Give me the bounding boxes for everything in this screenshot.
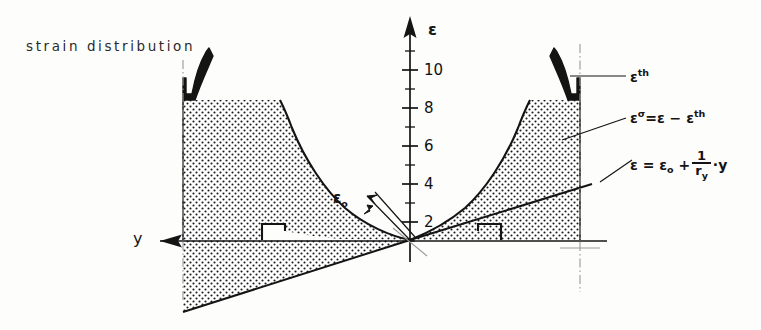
- linear-eps0-base: ε: [659, 157, 667, 173]
- thermal-base: ε: [630, 69, 638, 85]
- tick-label-6: 6: [424, 137, 434, 155]
- linear-plus: +: [678, 157, 690, 173]
- fraction-numerator: 1: [692, 149, 711, 162]
- tick-label-8: 8: [424, 99, 434, 117]
- radius-subscript: y: [702, 169, 708, 180]
- curvature-fraction: 1ry: [692, 149, 711, 180]
- stress-equals: =: [645, 110, 657, 126]
- linear-eps0-subscript: o: [667, 164, 674, 175]
- stress-rhs-thermal-superscript: th: [694, 108, 705, 119]
- left-thermal-spike: [183, 48, 213, 100]
- strain-axis-symbol: ε: [428, 20, 437, 39]
- left-lobe-stipple: [183, 100, 410, 240]
- stress-lhs-base: ε: [630, 110, 638, 126]
- stress-strain-equation: εσ=ε − εth: [630, 108, 705, 126]
- tick-label-2: 2: [424, 213, 434, 231]
- stress-rhs-total: ε: [657, 110, 665, 126]
- epsilon-zero-subscript: o: [341, 198, 348, 209]
- right-thermal-spike: [550, 48, 580, 100]
- stress-rhs-thermal-base: ε: [686, 110, 694, 126]
- left-lobe-step: [262, 224, 285, 240]
- strain-distribution-figure: strain distribution: [0, 0, 761, 330]
- thermal-superscript: th: [638, 67, 649, 78]
- linear-lhs: ε: [630, 157, 638, 173]
- leader-line-linear: [600, 160, 632, 182]
- tick-label-10: 10: [424, 61, 443, 79]
- epsilon-zero-label: εo: [333, 189, 348, 209]
- fraction-denominator: ry: [692, 164, 711, 180]
- linear-equals: =: [643, 157, 655, 173]
- position-axis-symbol: y: [133, 229, 142, 248]
- linear-variable: y: [718, 157, 727, 173]
- stress-minus: −: [670, 110, 682, 126]
- linear-strain-equation: ε = εo +1ry·y: [630, 150, 727, 181]
- tick-label-4: 4: [424, 175, 434, 193]
- thermal-strain-label: εth: [630, 67, 649, 85]
